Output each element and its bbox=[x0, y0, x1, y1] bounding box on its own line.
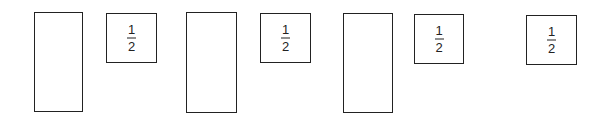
empty-whole-box bbox=[186, 12, 237, 113]
empty-whole-box bbox=[343, 13, 393, 113]
denominator: 2 bbox=[128, 40, 135, 54]
fraction-diagram: 1 2 1 2 1 2 1 2 bbox=[0, 0, 609, 117]
fraction-one-half: 1 2 bbox=[527, 25, 576, 56]
numerator: 1 bbox=[128, 23, 135, 37]
denominator: 2 bbox=[282, 40, 289, 54]
fraction-one-half: 1 2 bbox=[415, 24, 463, 55]
denominator: 2 bbox=[435, 41, 442, 55]
half-fraction-box: 1 2 bbox=[260, 13, 311, 63]
half-fraction-box: 1 2 bbox=[526, 15, 577, 65]
numerator: 1 bbox=[282, 23, 289, 37]
fraction-one-half: 1 2 bbox=[107, 23, 156, 54]
half-fraction-box: 1 2 bbox=[414, 14, 464, 64]
fraction-one-half: 1 2 bbox=[261, 23, 310, 54]
half-fraction-box: 1 2 bbox=[106, 13, 157, 63]
denominator: 2 bbox=[548, 42, 555, 56]
empty-whole-box bbox=[34, 12, 83, 112]
numerator: 1 bbox=[435, 24, 442, 38]
numerator: 1 bbox=[548, 25, 555, 39]
